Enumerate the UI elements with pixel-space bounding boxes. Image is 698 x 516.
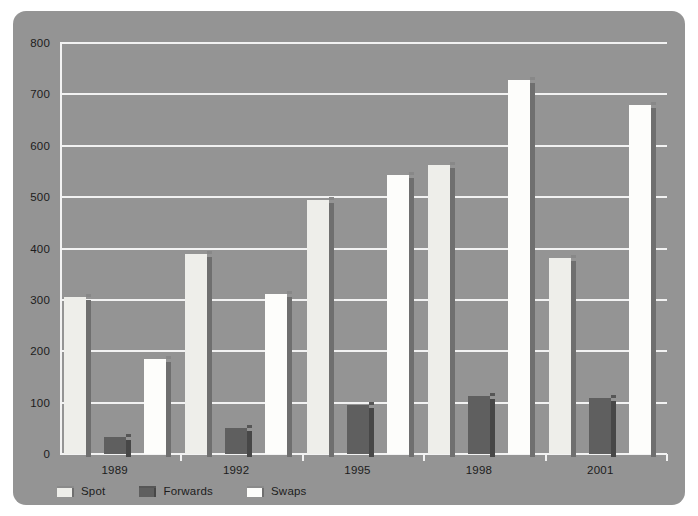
bar-forwards-1989 [104, 437, 126, 454]
bar-face [629, 105, 651, 454]
legend-swatch-forwards [139, 486, 156, 497]
y-axis-tick-label: 700 [30, 88, 50, 100]
bar-top-shadow [369, 402, 374, 405]
bar-side-shadow [287, 297, 292, 457]
legend-item-spot[interactable]: Spot [57, 485, 105, 497]
bar-face [185, 254, 207, 454]
x-axis-tick-mark [545, 454, 547, 461]
bar-face [225, 428, 247, 454]
bar-swaps-1992 [265, 294, 287, 454]
legend-swatch-side [72, 488, 74, 497]
bar-top-shadow [651, 102, 656, 105]
bar-side-shadow [409, 178, 414, 457]
y-axis-tick-label: 300 [30, 294, 50, 306]
bar-side-shadow [490, 399, 495, 457]
bar-spot-1998 [428, 165, 450, 454]
bar-side-shadow [450, 168, 455, 457]
bar-side-shadow [329, 203, 334, 457]
bar-face [265, 294, 287, 454]
y-axis-tick-label: 600 [30, 140, 50, 152]
bar-spot-2001 [549, 258, 571, 454]
bar-face [104, 437, 126, 454]
gridline [60, 145, 667, 147]
gridline [60, 248, 667, 250]
x-axis-tick-mark [423, 454, 425, 461]
bar-face [468, 396, 490, 454]
x-axis-tick-label: 1998 [466, 464, 492, 476]
legend-label: Swaps [271, 485, 307, 497]
legend-swatch-face [57, 488, 72, 497]
bar-face [508, 80, 530, 454]
legend-label: Forwards [163, 485, 213, 497]
bar-top-shadow [450, 162, 455, 165]
legend-swatch-face [139, 488, 154, 497]
bar-side-shadow [207, 257, 212, 457]
bar-top-shadow [490, 393, 495, 396]
bar-face [347, 405, 369, 454]
bar-side-shadow [571, 261, 576, 457]
plot-area: 0100200300400500600700800 19891992199519… [60, 43, 667, 454]
x-axis-tick-label: 1995 [344, 464, 370, 476]
legend-label: Spot [81, 485, 105, 497]
bar-top-shadow [287, 291, 292, 294]
bar-top-shadow [247, 425, 252, 428]
bar-top-shadow [166, 356, 171, 359]
y-axis-tick-label: 0 [43, 448, 50, 460]
bar-face [64, 297, 86, 454]
x-axis-tick-label: 1989 [101, 464, 127, 476]
bar-swaps-1989 [144, 359, 166, 454]
bar-side-shadow [166, 362, 171, 457]
bar-top-shadow [530, 77, 535, 80]
bar-side-shadow [651, 108, 656, 457]
bar-spot-1992 [185, 254, 207, 454]
legend-item-swaps[interactable]: Swaps [247, 485, 307, 497]
bar-swaps-1998 [508, 80, 530, 454]
bar-top-shadow [571, 255, 576, 258]
bar-top-shadow [329, 197, 334, 200]
bar-swaps-2001 [629, 105, 651, 454]
x-axis-tick-label: 2001 [587, 464, 613, 476]
chart-panel: 0100200300400500600700800 19891992199519… [13, 11, 685, 505]
bar-swaps-1995 [387, 175, 409, 454]
legend-swatch-side [262, 488, 264, 497]
legend-swatch-side [154, 488, 156, 497]
bar-side-shadow [611, 401, 616, 458]
x-axis-tick-mark [302, 454, 304, 461]
legend-swatch-face [247, 488, 262, 497]
bar-side-shadow [247, 431, 252, 457]
y-axis-tick-label: 400 [30, 243, 50, 255]
y-axis-tick-label: 800 [30, 37, 50, 49]
bar-side-shadow [530, 83, 535, 457]
chart-legend: SpotForwardsSwaps [57, 485, 307, 497]
bar-top-shadow [409, 172, 414, 175]
bar-side-shadow [369, 408, 374, 457]
bar-forwards-2001 [589, 398, 611, 455]
legend-swatch-spot [57, 486, 74, 497]
gridline [60, 42, 667, 44]
bar-face [144, 359, 166, 454]
bar-top-shadow [126, 434, 131, 437]
x-axis-tick-label: 1992 [223, 464, 249, 476]
legend-swatch-swaps [247, 486, 264, 497]
bar-top-shadow [611, 395, 616, 398]
bar-forwards-1998 [468, 396, 490, 454]
bar-face [589, 398, 611, 455]
bar-forwards-1992 [225, 428, 247, 454]
bar-top-shadow [86, 294, 91, 297]
bar-face [549, 258, 571, 454]
gridline [60, 196, 667, 198]
bar-spot-1995 [307, 200, 329, 454]
y-axis-tick-label: 500 [30, 191, 50, 203]
bar-top-shadow [207, 251, 212, 254]
bar-face [387, 175, 409, 454]
bar-side-shadow [126, 440, 131, 457]
gridline [60, 93, 667, 95]
x-axis-tick-mark [180, 454, 182, 461]
bar-spot-1989 [64, 297, 86, 454]
x-axis-tick-mark [666, 454, 668, 461]
bar-face [307, 200, 329, 454]
y-axis-tick-label: 100 [30, 397, 50, 409]
legend-item-forwards[interactable]: Forwards [139, 485, 213, 497]
bar-forwards-1995 [347, 405, 369, 454]
chart-page: 0100200300400500600700800 19891992199519… [0, 0, 698, 516]
